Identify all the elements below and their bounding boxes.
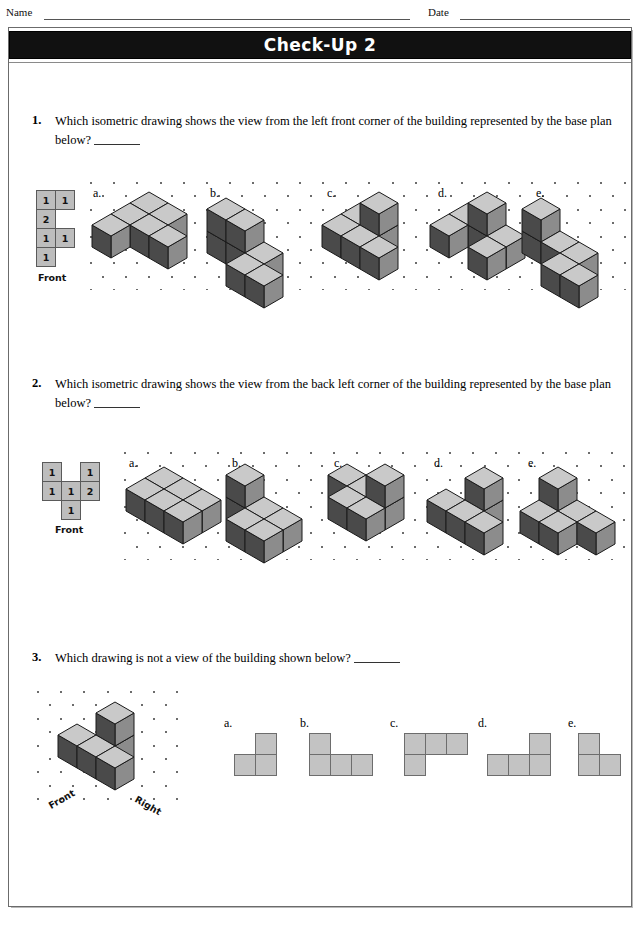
question-3-option-a-label: a. [224, 716, 232, 731]
base-plan-cell: 1 [42, 481, 62, 501]
question-2-option-a-drawing[interactable] [124, 465, 223, 546]
question-1-option-c-drawing[interactable] [320, 190, 400, 282]
name-label: Name [6, 6, 32, 18]
view-cell [529, 754, 551, 776]
view-cell [351, 754, 373, 776]
base-plan-cell: 1 [80, 462, 100, 482]
view-cell [599, 754, 621, 776]
view-cell [330, 754, 352, 776]
view-cell [487, 754, 509, 776]
question-3-text: Which drawing is not a view of the build… [55, 649, 615, 668]
question-2-option-d-drawing[interactable] [425, 465, 505, 557]
date-input-line[interactable] [460, 19, 630, 20]
base-plan-cell: 1 [36, 247, 56, 267]
question-2-base-plan: 1 1 1 1 2 1 Front [42, 462, 122, 542]
question-2-text: Which isometric drawing shows the view f… [55, 375, 615, 413]
question-2-option-c-drawing[interactable] [326, 462, 406, 543]
question-3-option-b-label: b. [300, 716, 309, 731]
base-plan-cell: 1 [61, 481, 81, 501]
base-plan-cell: 2 [80, 481, 100, 501]
view-cell [578, 733, 600, 755]
base-plan-cell: 1 [61, 500, 81, 520]
view-cell [578, 754, 600, 776]
question-1-text: Which isometric drawing shows the view f… [55, 112, 615, 150]
question-3-building-drawing [56, 700, 136, 792]
question-1-option-a-drawing[interactable] [90, 190, 189, 271]
question-3-number: 3. [32, 650, 41, 665]
base-plan-cell: 1 [36, 190, 56, 210]
name-date-row: Name Date [0, 2, 642, 24]
question-1-option-e-drawing[interactable] [520, 196, 600, 310]
question-1-option-d-drawing[interactable] [428, 190, 527, 282]
base-plan-cell: 2 [36, 209, 56, 229]
question-3-answer-blank[interactable] [354, 651, 400, 663]
view-cell [425, 733, 447, 755]
question-1-option-b-drawing[interactable] [205, 196, 285, 310]
page-title: Check-Up 2 [264, 35, 376, 55]
view-cell [404, 754, 426, 776]
question-1-number: 1. [32, 113, 41, 128]
question-2-answer-blank[interactable] [94, 396, 140, 408]
date-label: Date [428, 6, 449, 18]
base-plan-cell: 1 [55, 190, 75, 210]
question-3-option-c-label: c. [390, 716, 398, 731]
view-cell [508, 754, 530, 776]
view-cell [309, 733, 331, 755]
name-input-line[interactable] [44, 19, 410, 20]
question-2-option-b-drawing[interactable] [224, 462, 304, 565]
base-plan-cell: 1 [42, 462, 62, 482]
view-cell [404, 733, 426, 755]
base-plan-cell: 1 [55, 228, 75, 248]
worksheet-title-bar: Check-Up 2 [9, 31, 631, 59]
question-2-number: 2. [32, 376, 41, 391]
title-underline [9, 62, 631, 63]
front-label: Front [55, 524, 83, 535]
question-3-option-e-label: e. [568, 716, 576, 731]
view-cell [529, 733, 551, 755]
view-cell [255, 733, 277, 755]
view-cell [446, 733, 468, 755]
question-3-prompt: Which drawing is not a view of the build… [55, 651, 351, 665]
view-cell [234, 754, 256, 776]
front-label: Front [38, 272, 66, 283]
view-cell [255, 754, 277, 776]
question-1-answer-blank[interactable] [94, 133, 140, 145]
question-2-option-e-drawing[interactable] [518, 465, 617, 557]
view-cell [309, 754, 331, 776]
base-plan-cell: 1 [36, 228, 56, 248]
question-3-option-d-label: d. [478, 716, 487, 731]
